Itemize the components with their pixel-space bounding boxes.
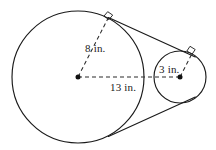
geometry-figure: 8 in. 3 in. 13 in. xyxy=(0,0,216,150)
radius-label-small: 3 in. xyxy=(159,64,180,75)
center-point-icon xyxy=(178,75,183,80)
radius-label-large: 8 in. xyxy=(85,43,106,54)
upper-tangent-line xyxy=(108,18,195,57)
center-point-icon xyxy=(76,75,81,80)
lower-tangent-line xyxy=(108,97,195,136)
center-distance-label: 13 in. xyxy=(110,82,136,93)
radius-to-tangent-small-segment xyxy=(180,54,192,77)
geometry-canvas xyxy=(0,0,216,150)
